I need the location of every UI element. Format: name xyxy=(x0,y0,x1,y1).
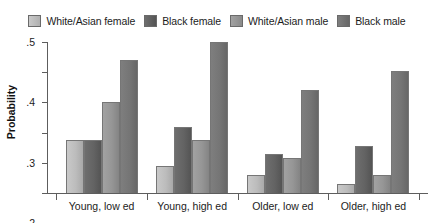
legend-label: White/Asian male xyxy=(248,15,328,27)
y-axis-tick-label: .2 xyxy=(26,217,35,223)
bar-chart-figure: White/Asian female Black female White/As… xyxy=(0,0,434,223)
legend-label: White/Asian female xyxy=(46,15,135,27)
bar xyxy=(265,154,283,193)
bar-group-bars xyxy=(337,42,409,193)
bar xyxy=(373,175,391,193)
bar xyxy=(337,184,355,193)
bar-group xyxy=(247,42,319,193)
y-axis-title-text: Probability xyxy=(5,84,17,138)
bar xyxy=(192,140,210,193)
x-axis-group-label: Young, high ed xyxy=(157,200,227,212)
bar xyxy=(102,102,120,193)
legend-item-black-female: Black female xyxy=(144,15,221,27)
x-axis-group-separator-tick xyxy=(238,193,239,200)
bar-group-bars xyxy=(247,42,319,193)
legend-swatch-icon xyxy=(337,15,350,27)
y-axis-tick-mark: .0 xyxy=(42,193,47,194)
legend-swatch-icon xyxy=(144,15,157,27)
bar xyxy=(174,127,192,193)
y-axis-tick-mark: .1 xyxy=(42,163,47,164)
bar-group xyxy=(66,42,138,193)
bar xyxy=(355,146,373,193)
y-axis-tick-label: .4 xyxy=(26,96,35,108)
legend-label: Black male xyxy=(355,15,405,27)
bar xyxy=(210,42,228,193)
bar xyxy=(283,158,301,193)
bar xyxy=(120,60,138,193)
legend-label: Black female xyxy=(162,15,221,27)
y-axis-tick-label: .3 xyxy=(26,157,35,169)
plot-area: .0.1.2.3.4.5 Young, low edYoung, high ed… xyxy=(47,42,428,193)
x-axis-group-separator-tick xyxy=(147,193,148,200)
legend-swatch-icon xyxy=(28,15,41,27)
y-axis-tick-label: .5 xyxy=(26,36,35,48)
x-axis-group-separator-tick xyxy=(419,193,420,200)
x-axis-group-label: Young, low ed xyxy=(69,200,135,212)
y-axis-tick-mark: .4 xyxy=(42,72,47,73)
bar xyxy=(301,90,319,193)
y-axis-tick-mark: .2 xyxy=(42,133,47,134)
x-axis-group-separator-tick xyxy=(328,193,329,200)
bar xyxy=(84,140,102,193)
x-axis-group-label: Older, high ed xyxy=(341,200,406,212)
bar-group xyxy=(156,42,228,193)
legend-item-white-asian-male: White/Asian male xyxy=(230,15,328,27)
bar xyxy=(156,166,174,193)
bar-group xyxy=(337,42,409,193)
y-axis-tick-mark: .5 xyxy=(42,42,47,43)
bar xyxy=(66,140,84,193)
chart-legend: White/Asian female Black female White/As… xyxy=(0,12,434,30)
bar-group-bars xyxy=(156,42,228,193)
bar-group-bars xyxy=(66,42,138,193)
y-axis-line xyxy=(47,42,48,193)
legend-item-black-male: Black male xyxy=(337,15,405,27)
bar xyxy=(391,71,409,193)
x-axis-group-separator-tick xyxy=(56,193,57,200)
y-axis-title: Probability xyxy=(3,0,19,223)
legend-swatch-icon xyxy=(230,15,243,27)
x-axis-group-label: Older, low ed xyxy=(252,200,313,212)
legend-item-white-asian-female: White/Asian female xyxy=(28,15,135,27)
y-axis-tick-mark: .3 xyxy=(42,102,47,103)
bar xyxy=(247,175,265,193)
